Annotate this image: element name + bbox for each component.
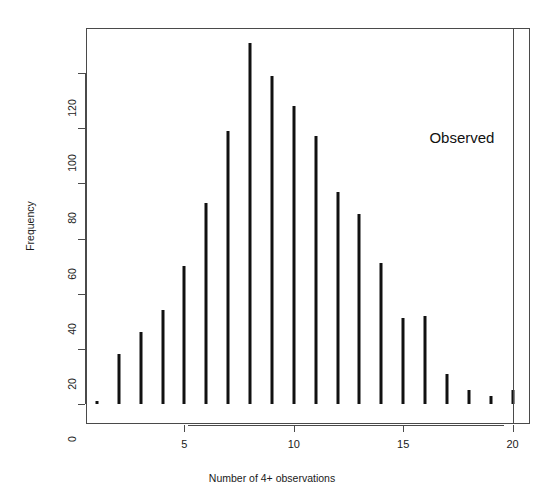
y-tick: [78, 404, 85, 405]
y-tick: [78, 294, 85, 295]
bar: [358, 214, 361, 404]
bar: [183, 266, 186, 404]
bar: [117, 354, 120, 404]
observed-reference-line: [513, 28, 514, 424]
bar: [139, 332, 142, 404]
y-tick-label: 120: [66, 72, 78, 144]
bar: [489, 396, 492, 404]
bar: [249, 43, 252, 404]
bar: [336, 192, 339, 404]
bar: [292, 106, 295, 404]
x-axis-label: Number of 4+ observations: [0, 472, 544, 484]
bar: [227, 131, 230, 404]
bar: [314, 136, 317, 404]
x-tick: [513, 425, 514, 432]
histogram-figure: 020406080100120 Frequency 5101520 Number…: [0, 0, 544, 503]
x-tick-label: 10: [288, 438, 300, 450]
y-tick: [78, 239, 85, 240]
plot-area: [86, 28, 530, 424]
x-tick-label: 20: [506, 438, 518, 450]
y-axis-label: Frequency: [24, 201, 36, 251]
y-tick: [78, 73, 85, 74]
bar: [161, 310, 164, 404]
bar: [467, 390, 470, 404]
x-tick: [184, 425, 185, 432]
observed-label: Observed: [429, 129, 494, 146]
bar: [424, 316, 427, 404]
bar: [205, 203, 208, 404]
y-tick: [78, 128, 85, 129]
bar: [402, 318, 405, 404]
bar: [95, 401, 98, 404]
bar: [270, 76, 273, 404]
bar: [380, 263, 383, 404]
bar: [445, 374, 448, 404]
y-axis-line: [85, 73, 86, 404]
x-tick: [403, 425, 404, 432]
x-tick: [294, 425, 295, 432]
y-tick: [78, 349, 85, 350]
x-tick-label: 5: [181, 438, 187, 450]
y-tick: [78, 183, 85, 184]
x-axis-line: [188, 425, 504, 426]
x-tick-label: 15: [397, 438, 409, 450]
